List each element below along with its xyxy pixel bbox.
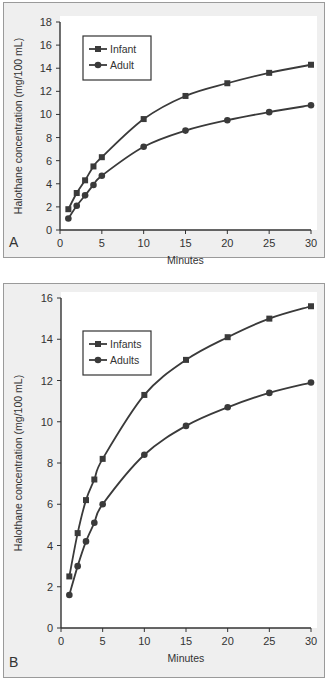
x-tick-label: 10: [138, 237, 150, 249]
legend-label: Infant: [110, 43, 136, 55]
y-tick-label: 2: [47, 581, 53, 593]
y-tick-label: 10: [41, 416, 53, 428]
x-tick-label: 5: [100, 635, 106, 647]
panel-letter: A: [9, 234, 19, 250]
square-marker: [90, 163, 96, 169]
x-tick-label: 5: [99, 237, 105, 249]
square-marker: [83, 497, 89, 503]
y-tick-label: 16: [40, 39, 52, 51]
x-tick-label: 30: [305, 635, 317, 647]
x-tick-label: 0: [57, 237, 63, 249]
y-tick-label: 18: [40, 16, 52, 28]
circle-marker: [182, 127, 189, 134]
x-tick-label: 20: [222, 635, 234, 647]
legend-label: Adults: [110, 354, 139, 366]
x-tick-label: 15: [179, 237, 191, 249]
circle-marker: [83, 538, 90, 545]
circle-marker: [82, 192, 89, 199]
circle-marker: [308, 379, 315, 386]
x-tick-label: 25: [263, 635, 275, 647]
square-marker: [65, 206, 71, 212]
circle-marker: [224, 404, 231, 411]
square-marker: [75, 530, 81, 536]
circle-marker: [91, 520, 98, 527]
circle-marker: [90, 182, 97, 189]
y-tick-label: 4: [47, 540, 53, 552]
square-marker: [266, 316, 272, 322]
chart-a: 024681012141618051015202530MinutesHaloth…: [9, 16, 317, 266]
chart-b: 0246810121416051015202530MinutesHalothan…: [9, 292, 317, 670]
square-marker: [99, 154, 105, 160]
y-tick-label: 8: [47, 457, 53, 469]
square-marker: [66, 573, 72, 579]
y-axis-label: Halothane concentration (mg/100 mL): [12, 38, 24, 214]
circle-marker: [65, 215, 72, 222]
circle-marker: [308, 102, 315, 109]
square-marker: [224, 80, 230, 86]
circle-marker: [99, 501, 106, 508]
chart-canvas: 024681012141618051015202530MinutesHaloth…: [0, 0, 330, 680]
circle-marker: [140, 144, 147, 151]
y-tick-label: 0: [47, 622, 53, 634]
legend-label: Adult: [110, 59, 134, 71]
legend: InfantAdult: [83, 36, 151, 80]
legend-label: Infants: [110, 338, 142, 350]
x-tick-label: 0: [58, 635, 64, 647]
y-tick-label: 4: [46, 178, 52, 190]
square-marker: [141, 116, 147, 122]
legend-square-icon: [95, 46, 101, 52]
legend: InfantsAdults: [83, 331, 151, 375]
square-marker: [141, 392, 147, 398]
y-tick-label: 10: [40, 108, 52, 120]
x-tick-label: 30: [305, 237, 317, 249]
x-axis-label: Minutes: [168, 652, 205, 664]
y-tick-label: 0: [46, 224, 52, 236]
square-marker: [308, 62, 314, 68]
circle-marker: [224, 117, 231, 124]
x-tick-label: 20: [221, 237, 233, 249]
square-marker: [74, 190, 80, 196]
y-tick-label: 6: [47, 498, 53, 510]
square-marker: [266, 70, 272, 76]
square-marker: [183, 93, 189, 99]
circle-marker: [74, 563, 81, 570]
circle-marker: [73, 202, 80, 209]
circle-marker: [66, 592, 73, 599]
panel-letter: B: [9, 654, 18, 670]
square-marker: [225, 334, 231, 340]
square-marker: [183, 357, 189, 363]
square-marker: [82, 177, 88, 183]
legend-circle-icon: [95, 357, 102, 364]
y-tick-label: 14: [41, 333, 53, 345]
circle-marker: [183, 423, 190, 430]
legend-square-icon: [95, 341, 101, 347]
x-tick-label: 25: [263, 237, 275, 249]
x-axis-label: Minutes: [167, 254, 204, 266]
square-marker: [91, 477, 97, 483]
legend-circle-icon: [95, 62, 102, 69]
square-marker: [100, 456, 106, 462]
y-tick-label: 12: [40, 85, 52, 97]
square-marker: [308, 303, 314, 309]
y-tick-label: 16: [41, 292, 53, 304]
y-axis-label: Halothane concentration (mg/100 mL): [12, 375, 24, 551]
circle-marker: [266, 390, 273, 397]
y-tick-label: 2: [46, 201, 52, 213]
circle-marker: [141, 451, 148, 458]
y-tick-label: 14: [40, 62, 52, 74]
x-tick-label: 15: [180, 635, 192, 647]
x-tick-label: 10: [138, 635, 150, 647]
circle-marker: [99, 172, 106, 179]
y-tick-label: 12: [41, 375, 53, 387]
y-tick-label: 6: [46, 155, 52, 167]
y-tick-label: 8: [46, 132, 52, 144]
circle-marker: [266, 109, 273, 116]
